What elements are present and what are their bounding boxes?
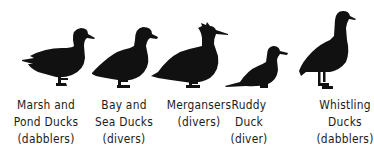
ruddy-duck-silhouette-icon <box>225 46 288 88</box>
label-bay-sea-ducks: Bay and Sea Ducks (divers) <box>95 96 153 147</box>
label-line: Whistling <box>316 96 373 113</box>
marsh-pond-duck-silhouette-icon <box>22 28 95 86</box>
label-marsh-pond-ducks: Marsh and Pond Ducks (dabblers) <box>14 96 78 147</box>
bay-sea-duck-silhouette-icon <box>92 27 158 88</box>
label-mergansers: Mergansers (divers) <box>167 96 232 130</box>
label-line: Sea Ducks <box>95 113 153 130</box>
merganser-silhouette-icon <box>151 22 228 88</box>
label-ruddy-duck: Ruddy Duck (diver) <box>230 96 267 147</box>
label-line: (divers) <box>167 113 232 130</box>
label-line: Bay and <box>95 96 153 113</box>
label-whistling-ducks: Whistling Ducks (dabblers) <box>316 96 373 147</box>
label-line: Duck <box>230 113 267 130</box>
label-line: Ruddy <box>230 96 267 113</box>
label-line: (divers) <box>95 130 153 147</box>
label-line: Ducks <box>316 113 373 130</box>
whistling-duck-silhouette-icon <box>299 11 356 89</box>
label-line: (diver) <box>230 130 267 147</box>
label-line: Mergansers <box>167 96 232 113</box>
label-line: (dabblers) <box>316 130 373 147</box>
label-line: Pond Ducks <box>14 113 78 130</box>
label-line: Marsh and <box>14 96 78 113</box>
label-line: (dabblers) <box>14 130 78 147</box>
